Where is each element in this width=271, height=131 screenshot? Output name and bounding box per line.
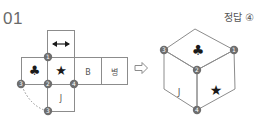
svg-text:3: 3 — [162, 46, 166, 53]
star-icon: ★ — [55, 63, 67, 78]
svg-text:4: 4 — [195, 106, 199, 113]
face-b-label: B — [85, 68, 91, 77]
face-byeong-label: 병 — [111, 68, 118, 77]
cube-left-face — [164, 50, 197, 110]
svg-text:1: 1 — [232, 46, 236, 53]
svg-text:4: 4 — [72, 80, 76, 87]
face-j-label: J — [59, 94, 62, 103]
svg-text:3: 3 — [19, 80, 23, 87]
svg-text:1: 1 — [46, 53, 50, 60]
cube-club-icon: ♣ — [192, 42, 205, 58]
cube-j-label: J — [177, 87, 181, 97]
fold-arc — [22, 86, 47, 111]
double-arrow-icon — [52, 41, 70, 47]
cube-right-face — [197, 50, 235, 110]
diagram: ♣ ★ B 병 J 1 2 3 4 3 ♣ J ★ 3 1 2 4 — [0, 0, 271, 131]
club-icon: ♣ — [29, 63, 41, 78]
svg-text:2: 2 — [195, 66, 199, 73]
cube-star-icon: ★ — [210, 82, 223, 98]
svg-text:3: 3 — [46, 107, 50, 114]
svg-text:2: 2 — [46, 80, 50, 87]
right-arrow-icon — [135, 63, 148, 74]
